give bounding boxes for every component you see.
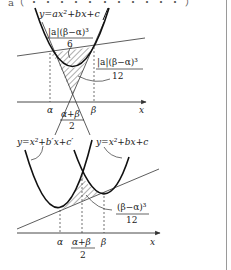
tick-alpha-2: α — [57, 237, 63, 247]
figure-2: y=x²+b′x+c′ y=x²+bx+c (β−α)³ 12 α β x α+… — [16, 137, 160, 260]
area-upper-numerator: |a|(β−α)³ — [48, 27, 89, 38]
area-lower-numerator: |a|(β−α)³ — [97, 57, 138, 68]
tick-mid-numerator-2: α+β — [72, 237, 91, 247]
pointer-left-curve — [31, 146, 43, 160]
axis-label-x-1: x — [139, 105, 144, 115]
tick-mid-denominator-1: 2 — [69, 121, 75, 131]
curve-label-1: y=ax²+bx+c — [38, 8, 101, 19]
area-2-denominator: 12 — [126, 215, 137, 225]
pointer-right-curve — [104, 147, 122, 158]
area-2-numerator: (β−α)³ — [117, 202, 147, 212]
tick-alpha-1: α — [47, 105, 53, 115]
tick-mid-denominator-2: 2 — [80, 250, 86, 260]
diagram-canvas: a（ ・ ・ ・ ・ ・ ・ ・ ・ ・ ・ ・ ） — [0, 0, 231, 270]
area-lower-denominator: 12 — [112, 71, 123, 81]
tick-beta-2: β — [100, 237, 106, 247]
area-upper-denominator: 6 — [67, 39, 73, 49]
tick-mid-numerator-1: α+β — [61, 109, 80, 119]
common-tangent — [17, 169, 159, 229]
curve-label-right: y=x²+bx+c — [95, 137, 148, 147]
axis-label-x-2: x — [150, 237, 155, 247]
tick-beta-1: β — [90, 105, 96, 115]
figure-1: y=ax²+bx+c |a|(β−α)³ 6 |a|(β−α)³ 12 α β … — [17, 8, 146, 135]
curve-label-left: y=x²+b′x+c′ — [16, 137, 73, 147]
